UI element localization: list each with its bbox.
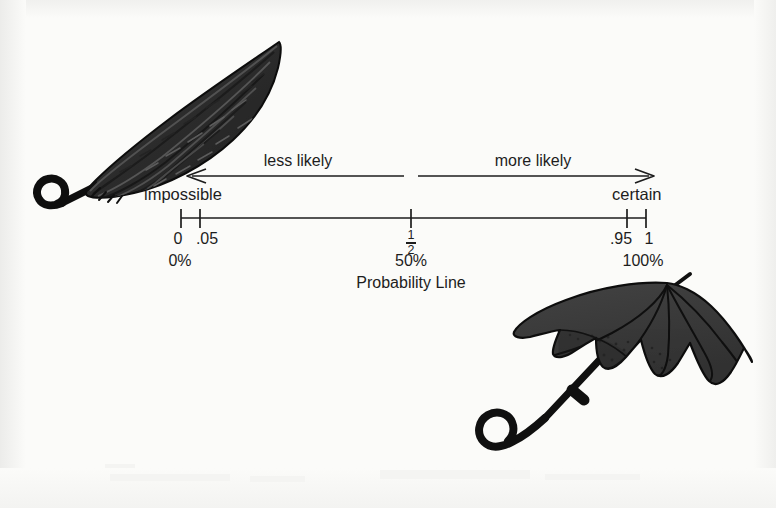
- percent-label-50: 50%: [395, 253, 427, 269]
- probability-axis: [181, 209, 646, 228]
- impossible-label: impossible: [144, 186, 222, 203]
- open-umbrella-illustration: [479, 274, 752, 447]
- closed-umbrella-illustration: [37, 42, 281, 205]
- tick-label-005: .05: [196, 231, 218, 247]
- tick-label-0: 0: [174, 231, 183, 247]
- open-umbrella-handle-hook: [479, 413, 545, 447]
- percent-label-0: 0%: [168, 253, 191, 269]
- more-likely-label: more likely: [495, 153, 571, 169]
- closed-umbrella-handle-hook: [37, 179, 65, 206]
- tick-label-095: .95: [610, 231, 632, 247]
- open-umbrella-runner: [572, 390, 584, 400]
- direction-arrows: [187, 169, 654, 183]
- probability-line-figure: less likely more likely impossible certa…: [0, 0, 776, 508]
- tick-label-1: 1: [645, 231, 654, 247]
- figure-caption: Probability Line: [356, 275, 465, 291]
- less-likely-label: less likely: [264, 153, 332, 169]
- certain-label: certain: [612, 186, 662, 203]
- fraction-numerator: 1: [407, 229, 416, 242]
- percent-label-100: 100%: [623, 253, 664, 269]
